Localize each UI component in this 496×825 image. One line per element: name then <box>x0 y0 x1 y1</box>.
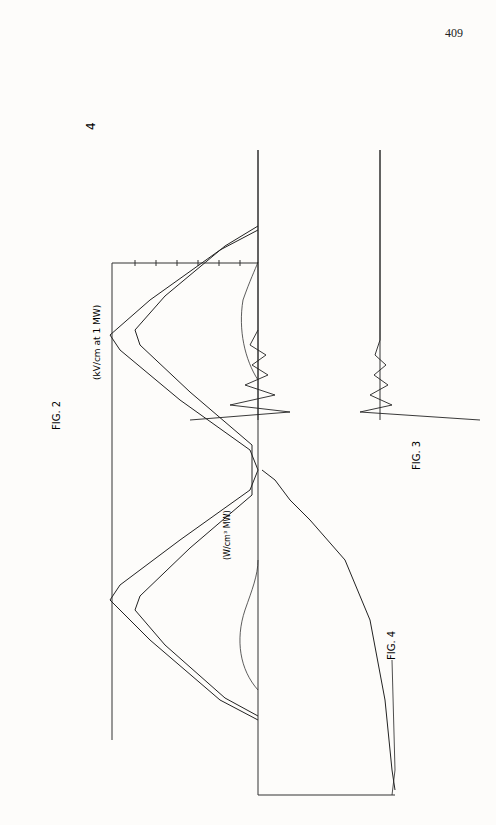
fig2-chart: FIG. 2 <box>51 226 258 740</box>
figures-canvas: FIG. 2 FIG. 4 FIG. 3 (kV/cm at 1 MW) (W/… <box>0 0 496 825</box>
fig3-label: FIG. 3 <box>411 441 422 470</box>
footer-mark: 4 <box>84 122 98 130</box>
fig3-ylabel: (W/cm³ MW) <box>223 510 232 560</box>
fig4-label: FIG. 4 <box>386 631 397 660</box>
fig4-ex-chart <box>190 150 290 420</box>
fig4-ez-chart <box>360 150 480 420</box>
fig2-label: FIG. 2 <box>51 401 62 430</box>
fig4-ylabel: (kV/cm at 1 MW) <box>92 305 102 380</box>
fig3-chart <box>258 330 395 795</box>
